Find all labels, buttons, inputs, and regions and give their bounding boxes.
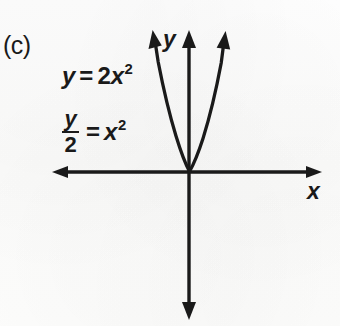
eq1-equals-sign: = xyxy=(79,64,93,88)
equation-y-equals-2x-squared: y = 2 x 2 xyxy=(62,64,133,88)
eq2-exponent: 2 xyxy=(118,118,126,133)
x-axis-right-arrow-icon xyxy=(306,166,322,178)
parabola-right-branch xyxy=(190,46,224,172)
y-axis-label: y xyxy=(163,28,176,51)
parabola-left-arrow-icon xyxy=(149,30,162,49)
figure-panel: (c) x y y = 2 x 2 y 2 = x 2 xyxy=(0,0,340,326)
equation-y-over-2-equals-x-squared: y 2 = x 2 xyxy=(62,108,126,156)
parabola-right-arrow-icon xyxy=(217,31,231,49)
x-axis-label: x xyxy=(307,180,320,203)
panel-label: (c) xyxy=(3,33,31,58)
eq1-coefficient: 2 xyxy=(97,64,110,88)
parabola-left-branch xyxy=(156,45,190,172)
y-axis-bottom-arrow-icon xyxy=(182,302,196,320)
eq1-exponent: 2 xyxy=(125,62,133,77)
eq1-rhs-variable: x xyxy=(111,64,124,88)
eq2-fraction: y 2 xyxy=(62,108,79,156)
eq2-rhs-variable: x xyxy=(104,120,117,144)
eq2-denominator: 2 xyxy=(62,133,78,156)
y-axis-top-arrow-icon xyxy=(182,30,196,48)
eq2-numerator: y xyxy=(62,108,78,131)
eq2-equals-sign: = xyxy=(86,120,100,144)
x-axis-left-arrow-icon xyxy=(52,166,68,178)
y-axis xyxy=(182,30,196,320)
eq1-lhs-variable: y xyxy=(62,64,75,88)
